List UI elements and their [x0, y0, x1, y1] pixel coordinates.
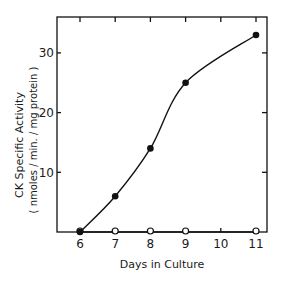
- filled-circle-marker: [77, 229, 84, 236]
- filled-circle-marker: [182, 79, 189, 86]
- y-tick-label: 30: [39, 46, 54, 60]
- filled-circle-marker: [147, 145, 154, 152]
- data-markers: [77, 32, 260, 236]
- filled-circle-marker: [112, 193, 119, 200]
- x-tick-label: 11: [248, 237, 263, 251]
- ck-activity-chart: 67891011102030 Days in Culture CK Specif…: [0, 0, 282, 282]
- y-tick-label: 10: [39, 166, 54, 180]
- open-circle-marker: [253, 228, 259, 234]
- y-axis-label: CK Specific Activity: [13, 92, 26, 198]
- y-axis-units-label: ( nmoles / min. / mg protein ): [28, 67, 39, 214]
- filled-series-curve: [80, 35, 256, 232]
- x-axis-label: Days in Culture: [120, 258, 205, 271]
- x-tick-label: 7: [111, 237, 119, 251]
- filled-circle-marker: [253, 32, 260, 39]
- x-tick-label: 9: [182, 237, 190, 251]
- x-tick-label: 8: [147, 237, 155, 251]
- axis-ticks: 67891011102030: [39, 17, 267, 251]
- open-circle-marker: [112, 228, 118, 234]
- open-circle-marker: [183, 228, 189, 234]
- y-tick-label: 20: [39, 106, 54, 120]
- open-circle-marker: [147, 228, 153, 234]
- x-tick-label: 6: [76, 237, 84, 251]
- x-tick-label: 10: [213, 237, 228, 251]
- data-curves: [80, 35, 256, 232]
